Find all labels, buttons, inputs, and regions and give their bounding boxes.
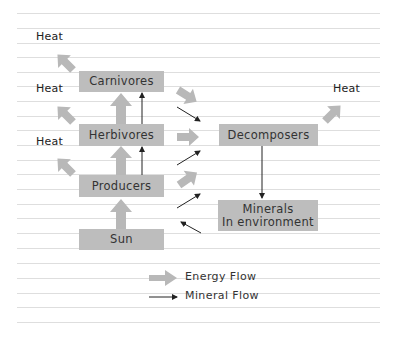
node-minerals-label-line1: Minerals [243,203,294,216]
mineral-arrow-herbivores-decomposers [177,151,200,165]
heat-label-herbivores: Heat [36,82,63,95]
energy-arrow-herbivores-heat [51,100,79,128]
node-minerals-label-line2: In environment [222,216,314,229]
node-producers: Producers [79,175,164,197]
legend-energy-arrow [149,270,177,286]
energy-arrow-herbivores-decomposers [177,128,199,146]
heat-label-carnivores: Heat [36,30,63,43]
node-sun: Sun [79,229,164,250]
node-decomposers-label: Decomposers [228,129,310,142]
node-sun-label: Sun [110,233,133,246]
node-carnivores: Carnivores [79,71,164,92]
mineral-arrow-producers-decomposers [177,194,200,208]
heat-label-decomposers: Heat [333,82,360,95]
mineral-arrow-carnivores-decomposers [177,107,200,121]
node-herbivores: Herbivores [79,124,164,146]
energy-arrow-herbivores-carnivores [110,93,132,124]
heat-label-producers: Heat [36,135,63,148]
mineral-arrow-minerals-producers [181,222,201,233]
legend-mineral-label: Mineral Flow [185,289,259,302]
node-decomposers: Decomposers [219,124,318,146]
node-carnivores-label: Carnivores [89,75,153,88]
energy-arrow-decomposers-heat [319,99,347,127]
legend-energy-label: Energy Flow [185,270,257,283]
energy-arrow-producers-heat [51,152,79,180]
node-producers-label: Producers [92,180,152,193]
energy-arrow-producers-herbivores [110,146,132,175]
node-herbivores-label: Herbivores [89,129,154,142]
energy-arrow-carnivores-heat [51,48,79,76]
diagram-canvas: Carnivores Herbivores Producers Sun Deco… [0,0,393,340]
node-minerals: Minerals In environment [218,200,318,231]
energy-arrow-sun-producers [110,199,132,229]
energy-arrow-producers-decomposers [174,165,202,192]
energy-arrow-carnivores-decomposers [173,82,201,109]
